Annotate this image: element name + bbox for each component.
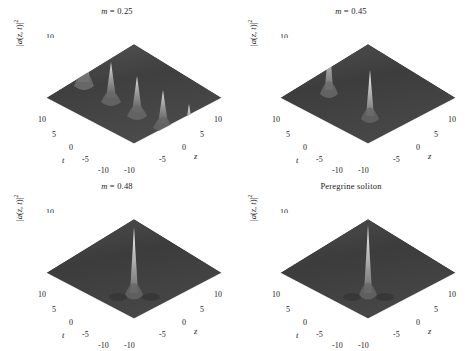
z-axis-label: |a(z, t)|2: [13, 195, 24, 221]
z-tick-label: -10: [124, 167, 135, 175]
z-tick-label: 10: [214, 291, 222, 299]
z-tick-label: 5: [200, 131, 204, 139]
panel-m-045: m = 0.45 |a(z, t)|2 10 5 0: [234, 0, 468, 175]
t-tick-label: 0: [303, 319, 307, 327]
z-tick-label: 0: [416, 319, 420, 327]
plot-area: |a(z, t)|2 10 5 0: [258, 24, 464, 169]
z-tick-label: 5: [200, 306, 204, 314]
t-tick-label: 5: [52, 306, 56, 314]
z-tick-label: 0: [182, 144, 186, 152]
z-tick-label: 10: [214, 116, 222, 124]
plot-area: |a(z, t)|2 10 5 0: [24, 199, 230, 344]
t-tick-label: 0: [303, 144, 307, 152]
z-tick-label: 5: [434, 306, 438, 314]
t-tick-label: -10: [332, 342, 343, 350]
surface-plot: [278, 38, 458, 150]
surface-svg: [44, 38, 224, 150]
t-tick-label: 10: [272, 291, 280, 299]
z-axis-name: z: [194, 327, 197, 335]
z-tick-label: 10: [448, 116, 456, 124]
t-tick-label: -5: [82, 331, 89, 339]
t-axis-label: t: [296, 156, 298, 164]
plot-area: |a(z, t)|2 10 5 0: [24, 24, 230, 169]
surface-plot: [44, 213, 224, 325]
z-tick-label: -5: [159, 156, 166, 164]
plot-area: |a(z, t)|2 10 5 0: [258, 199, 464, 344]
z-axis-name: z: [194, 152, 197, 160]
surface-plot: [278, 213, 458, 325]
z-axis-name: z: [428, 152, 431, 160]
t-tick-label: -10: [98, 167, 109, 175]
surface-svg: [278, 38, 458, 150]
t-tick-label: 5: [52, 131, 56, 139]
z-axis-name: z: [428, 327, 431, 335]
panel-title: m = 0.25: [0, 6, 234, 16]
t-tick-label: -5: [82, 156, 89, 164]
surface-plot: [44, 38, 224, 150]
t-axis-label: t: [62, 331, 64, 339]
z-tick-label: 10: [448, 291, 456, 299]
panel-peregrine: Peregrine soliton |a(z, t)|2 10 5 0: [234, 175, 468, 350]
panel-title: m = 0.48: [0, 181, 234, 191]
t-tick-label: 0: [69, 319, 73, 327]
panel-title-value: = 0.45: [344, 6, 367, 16]
panel-title: Peregrine soliton: [234, 181, 468, 191]
t-tick-label: 10: [38, 116, 46, 124]
z-axis-label: |a(z, t)|2: [247, 20, 258, 46]
t-tick-label: -10: [98, 342, 109, 350]
panel-title-value: Peregrine soliton: [320, 181, 381, 191]
z-tick-label: -5: [393, 156, 400, 164]
panel-m-025: m = 0.25 |a(z, t)|2 10 5 0: [0, 0, 234, 175]
z-tick-label: 5: [434, 131, 438, 139]
t-tick-label: 5: [286, 306, 290, 314]
t-tick-label: -5: [316, 156, 323, 164]
z-tick-label: -10: [358, 342, 369, 350]
panel-m-048: m = 0.48 |a(z, t)|2 10 5 0: [0, 175, 234, 350]
surface-svg: [44, 213, 224, 325]
t-axis-label: t: [296, 331, 298, 339]
panel-title-symbol: m: [101, 181, 107, 191]
z-tick-label: -5: [393, 331, 400, 339]
t-axis-label: t: [62, 156, 64, 164]
z-tick-label: -10: [358, 167, 369, 175]
t-tick-label: 0: [69, 144, 73, 152]
panel-title: m = 0.45: [234, 6, 468, 16]
t-tick-label: 10: [272, 116, 280, 124]
z-axis-label: |a(z, t)|2: [247, 195, 258, 221]
z-tick-label: -5: [159, 331, 166, 339]
t-tick-label: -5: [316, 331, 323, 339]
panel-title-value: = 0.25: [110, 6, 133, 16]
z-axis-label: |a(z, t)|2: [13, 20, 24, 46]
z-tick-label: 0: [416, 144, 420, 152]
z-tick-label: 0: [182, 319, 186, 327]
panel-title-symbol: m: [335, 6, 341, 16]
panel-title-symbol: m: [101, 6, 107, 16]
z-tick-label: -10: [124, 342, 135, 350]
t-tick-label: 5: [286, 131, 290, 139]
panel-title-value: = 0.48: [110, 181, 133, 191]
t-tick-label: 10: [38, 291, 46, 299]
figure-root: m = 0.25 |a(z, t)|2 10 5 0: [0, 0, 468, 351]
surface-svg: [278, 213, 458, 325]
t-tick-label: -10: [332, 167, 343, 175]
